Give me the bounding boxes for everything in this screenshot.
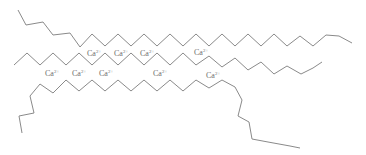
- ion-charge: 2+: [203, 48, 208, 53]
- calcium-ion-label: Ca2+: [194, 48, 208, 57]
- calcium-ion-label: Ca2+: [99, 69, 113, 78]
- calcium-ion-label: Ca2+: [153, 69, 167, 78]
- ion-symbol: Ca: [206, 71, 215, 80]
- ion-charge: 2+: [215, 71, 220, 76]
- ion-symbol: Ca: [114, 49, 123, 58]
- ion-symbol: Ca: [87, 49, 96, 58]
- calcium-ion-label: Ca2+: [114, 49, 128, 58]
- ion-symbol: Ca: [140, 49, 149, 58]
- ion-charge: 2+: [108, 69, 113, 74]
- ion-charge: 2+: [54, 69, 59, 74]
- ion-charge: 2+: [149, 49, 154, 54]
- ion-charge: 2+: [162, 69, 167, 74]
- calcium-ion-label: Ca2+: [72, 69, 86, 78]
- ion-symbol: Ca: [72, 69, 81, 78]
- ion-symbol: Ca: [194, 48, 203, 57]
- calcium-ion-label: Ca2+: [140, 49, 154, 58]
- calcium-ion-label: Ca2+: [206, 71, 220, 80]
- ion-symbol: Ca: [153, 69, 162, 78]
- alkyl-chain-bottom: [19, 80, 300, 148]
- calcium-ion-label: Ca2+: [87, 49, 101, 58]
- ion-symbol: Ca: [45, 69, 54, 78]
- alkyl-chain-top: [18, 10, 352, 47]
- ion-symbol: Ca: [99, 69, 108, 78]
- ion-charge: 2+: [123, 49, 128, 54]
- ion-charge: 2+: [81, 69, 86, 74]
- alkyl-chain-middle: [14, 53, 322, 74]
- ion-charge: 2+: [96, 49, 101, 54]
- calcium-ion-label: Ca2+: [45, 69, 59, 78]
